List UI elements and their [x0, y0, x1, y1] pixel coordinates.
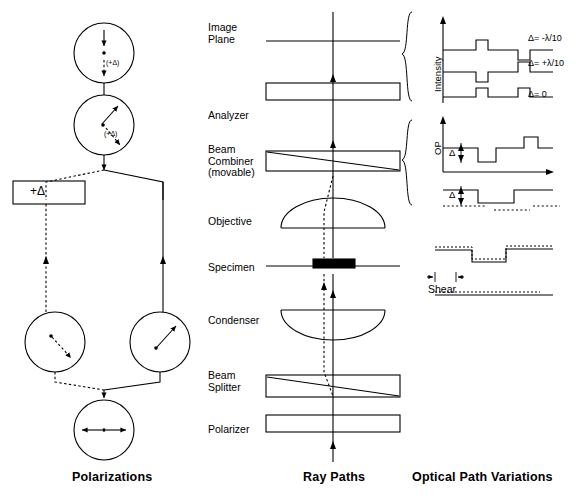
diagram-canvas	[0, 0, 576, 501]
dashed-descender-arrow	[43, 256, 49, 264]
axis-label-op: OP	[432, 141, 443, 155]
beam-dashed-arrow	[321, 282, 327, 290]
label-condenser: Condenser	[208, 315, 259, 327]
path-dashed-recombine	[55, 372, 104, 390]
polarization-circle-top-vertical	[74, 23, 134, 83]
shear-indicator	[427, 272, 464, 282]
delta-box-label: +Δ	[30, 186, 45, 198]
label-polarizer: Polarizer	[208, 424, 249, 436]
label-specimen: Specimen	[208, 262, 255, 274]
shear-trace-1-dotted	[435, 246, 553, 259]
op-delta-marker-2	[458, 186, 464, 206]
brace-intensity	[402, 12, 412, 101]
label-beam-combiner: Beam Combiner (movable)	[208, 144, 255, 179]
brace-op	[402, 120, 412, 205]
op-axes	[440, 116, 554, 175]
axis-label-intensity: Intensity	[432, 57, 443, 92]
op-delta-label-2: Δ	[449, 189, 455, 200]
solid-descender-arrow	[160, 256, 166, 264]
beam-arrow-1	[330, 74, 336, 82]
ray-paths-column	[266, 12, 400, 462]
path-solid-right	[104, 170, 163, 200]
beam-arrow-3	[330, 290, 336, 298]
polarization-circle-bottom-horizontal	[74, 400, 134, 460]
label-beam-splitter: Beam Splitter	[208, 370, 241, 393]
op-delta-marker-1	[458, 143, 464, 163]
polarization-circle-lower-right	[130, 312, 190, 372]
path-dashed-left	[46, 170, 104, 200]
trace-label-zero: Δ= 0	[528, 89, 547, 99]
trace-label-plus: Δ= +λ/10	[528, 58, 564, 68]
polarization-circle-lower-left	[25, 312, 85, 372]
element-specimen	[266, 259, 400, 268]
polarizations-column	[13, 23, 190, 460]
intensity-trace-minus	[443, 40, 553, 60]
caption-polarizations: Polarizations	[72, 470, 152, 484]
beam-arrow-4	[330, 441, 336, 449]
circle-top-label: (+Δ)	[106, 57, 119, 69]
shear-trace-1	[435, 249, 553, 262]
delta-box	[13, 181, 85, 204]
label-image-plane: Image Plane	[208, 22, 237, 45]
beam-dashed-lower	[324, 274, 333, 396]
label-objective: Objective	[208, 216, 252, 228]
caption-ray-paths: Ray Paths	[303, 470, 365, 484]
op-delta-label-1: Δ	[449, 147, 455, 158]
trace-label-minus: Δ= -λ/10	[528, 33, 562, 43]
optical-path-column	[402, 12, 560, 295]
path-solid-recombine	[104, 372, 160, 390]
polarization-circle-diagonal	[74, 95, 134, 155]
circle-diagonal-label: (+Δ)	[104, 128, 117, 140]
beam-dashed-upper	[324, 176, 333, 258]
label-analyzer: Analyzer	[208, 110, 249, 122]
caption-optical-path-variations: Optical Path Variations	[412, 470, 553, 484]
beam-arrow-2	[330, 140, 336, 148]
shear-label: Shear	[428, 283, 456, 295]
